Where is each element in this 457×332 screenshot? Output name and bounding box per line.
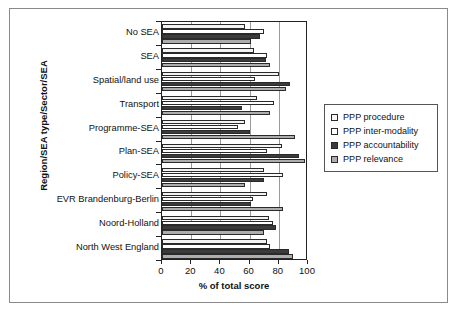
legend-swatch-icon [331, 114, 338, 121]
x-axis-tick-label: 20 [185, 265, 196, 276]
x-axis-tick-label: 60 [243, 265, 254, 276]
x-axis-tick [190, 260, 191, 264]
plot-area [161, 21, 307, 260]
bar [162, 144, 282, 148]
x-axis-tick [161, 260, 162, 264]
bar [162, 159, 305, 163]
bar [162, 178, 264, 182]
bar-group [162, 189, 306, 213]
x-axis-tick [307, 260, 308, 264]
bar-group [162, 142, 306, 166]
x-axis-tick-label: 40 [214, 265, 225, 276]
bar-group [162, 213, 306, 237]
bar [162, 168, 264, 172]
legend-item[interactable]: PPP relevance [331, 152, 432, 166]
bar [162, 207, 283, 211]
legend-swatch-icon [331, 128, 338, 135]
bar [162, 87, 286, 91]
bar [162, 24, 245, 28]
chart-legend: PPP procedurePPP inter-modalityPPP accou… [324, 104, 438, 172]
bar [162, 106, 242, 110]
y-axis-tick [156, 164, 161, 165]
bar [162, 230, 264, 234]
bar [162, 111, 270, 115]
y-axis-tick [156, 93, 161, 94]
y-axis-tick [156, 260, 161, 261]
legend-item[interactable]: PPP accountability [331, 138, 432, 152]
bar [162, 183, 245, 187]
bar [162, 39, 251, 43]
bar [162, 149, 267, 153]
bar [162, 244, 270, 248]
bars-layer [162, 22, 306, 259]
legend-swatch-icon [331, 156, 338, 163]
bar [162, 58, 266, 62]
x-axis-tick-label: 0 [158, 265, 163, 276]
bar [162, 53, 267, 57]
y-axis-tick [156, 212, 161, 213]
bar [162, 135, 295, 139]
legend-label: PPP accountability [343, 140, 419, 150]
y-axis-tick [156, 45, 161, 46]
bar [162, 29, 264, 33]
bar-group [162, 118, 306, 142]
bar [162, 77, 255, 81]
bar [162, 96, 257, 100]
y-axis-tick [156, 236, 161, 237]
legend-label: PPP inter-modality [343, 126, 418, 136]
bar [162, 197, 253, 201]
y-axis-tick [156, 21, 161, 22]
legend-label: PPP procedure [343, 112, 405, 122]
bar [162, 249, 289, 253]
bar [162, 254, 293, 258]
bar-group [162, 165, 306, 189]
y-axis-tick [156, 188, 161, 189]
bar [162, 239, 267, 243]
bar [162, 192, 267, 196]
y-axis-ticks [156, 21, 162, 260]
y-axis-title: Region/SEA type/Sector/SEA [38, 11, 49, 241]
bar [162, 154, 299, 158]
x-axis-tick-label: 100 [299, 265, 315, 276]
x-axis-tick-labels: 020406080100 [161, 265, 307, 279]
bar [162, 63, 270, 67]
chart-figure: Region/SEA type/Sector/SEA No SEASEASpat… [0, 0, 457, 332]
bar [162, 216, 269, 220]
y-axis-tick [156, 117, 161, 118]
bar [162, 101, 274, 105]
x-axis-title: % of total score [161, 280, 307, 291]
legend-item[interactable]: PPP procedure [331, 110, 432, 124]
bar-group [162, 70, 306, 94]
bar [162, 225, 276, 229]
bar [162, 48, 254, 52]
x-axis-tick [249, 260, 250, 264]
bar [162, 221, 273, 225]
bar [162, 120, 245, 124]
bar-group [162, 46, 306, 70]
bar-group [162, 237, 306, 261]
legend-item[interactable]: PPP inter-modality [331, 124, 432, 138]
y-axis-tick [156, 69, 161, 70]
x-axis-tick [219, 260, 220, 264]
legend-label: PPP relevance [343, 154, 403, 164]
bar [162, 202, 251, 206]
x-axis-tick-label: 80 [273, 265, 284, 276]
bar-group [162, 94, 306, 118]
legend-swatch-icon [331, 142, 338, 149]
bar [162, 72, 279, 76]
y-axis-tick [156, 141, 161, 142]
bar [162, 125, 238, 129]
bar [162, 130, 250, 134]
bar [162, 173, 283, 177]
bar [162, 82, 290, 86]
bar-group [162, 22, 306, 46]
bar [162, 34, 260, 38]
x-axis-tick [278, 260, 279, 264]
